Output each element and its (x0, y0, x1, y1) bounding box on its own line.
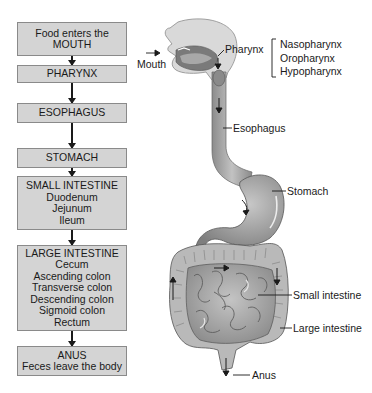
label-oropharynx: Oropharynx (280, 52, 335, 64)
label-hypopharynx: Hypopharynx (280, 65, 342, 77)
label-small-intestine: Small intestine (293, 289, 361, 301)
label-anus: Anus (252, 369, 276, 381)
label-stomach: Stomach (287, 185, 328, 197)
label-esophagus: Esophagus (233, 122, 286, 134)
label-mouth: Mouth (137, 58, 166, 70)
label-nasopharynx: Nasopharynx (280, 38, 342, 50)
label-pharynx: Pharynx (225, 43, 264, 55)
label-large-intestine: Large intestine (293, 322, 362, 334)
stomach-shape (196, 175, 284, 248)
small-intestine-coils (186, 264, 275, 344)
